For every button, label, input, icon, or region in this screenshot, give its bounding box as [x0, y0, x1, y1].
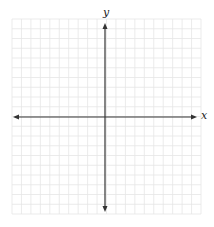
x-axis-label: x — [201, 110, 207, 121]
y-axis-label: y — [103, 7, 109, 18]
arrow-left-icon — [13, 115, 19, 120]
arrow-right-icon — [191, 115, 197, 120]
coordinate-plane — [0, 0, 214, 227]
